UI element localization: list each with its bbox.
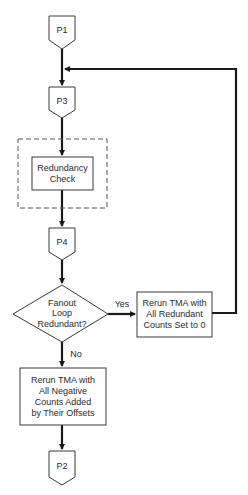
redundancy-check-line-2: Check — [50, 174, 76, 184]
rerun-negative-line-3: Counts Added — [35, 397, 92, 407]
edge-label-yes: Yes — [115, 299, 130, 309]
rerun-redundant-line-3: Counts Set to 0 — [143, 320, 205, 330]
rerun-redundant-line-2: All Redundant — [146, 309, 203, 319]
connector-p2: P2 — [49, 451, 75, 485]
decision-line-1: Fanout — [48, 298, 77, 308]
connector-p4: P4 — [49, 228, 75, 260]
connector-p1: P1 — [49, 16, 75, 49]
decision-fanout-loop-redundant: Fanout Loop Redundant? — [13, 285, 108, 342]
rerun-redundant-line-1: Rerun TMA with — [143, 298, 207, 308]
process-redundancy-check: Redundancy Check — [32, 157, 93, 190]
connector-p1-label: P1 — [56, 25, 67, 35]
connector-p2-label: P2 — [56, 461, 67, 471]
process-rerun-negative: Rerun TMA with All Negative Counts Added… — [20, 368, 106, 425]
connector-p3-label: P3 — [56, 96, 67, 106]
rerun-negative-line-4: by Their Offsets — [31, 408, 95, 418]
connector-p3: P3 — [49, 87, 75, 118]
flowchart: P1 P3 Redundancy Check P4 Fanout Loop Re… — [0, 0, 248, 495]
rerun-negative-line-2: All Negative — [39, 386, 87, 396]
edge-label-no: No — [70, 349, 82, 359]
decision-line-3: Redundant? — [37, 319, 86, 329]
redundancy-check-line-1: Redundancy — [37, 163, 88, 173]
rerun-negative-line-1: Rerun TMA with — [31, 375, 95, 385]
connector-p4-label: P4 — [56, 237, 67, 247]
process-rerun-redundant: Rerun TMA with All Redundant Counts Set … — [137, 292, 212, 337]
edge-feedback-loop — [65, 69, 236, 313]
decision-line-2: Loop — [52, 308, 72, 318]
